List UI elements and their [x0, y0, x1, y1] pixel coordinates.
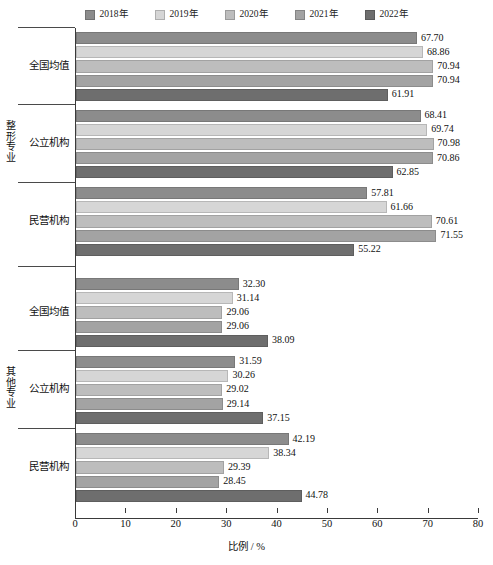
- bar-2018年[interactable]: [76, 32, 417, 44]
- bar-row: 68.41: [76, 109, 478, 123]
- bar-2022年[interactable]: [76, 335, 268, 347]
- x-tick-label: 60: [372, 518, 383, 529]
- bar-value-label: 42.19: [289, 432, 316, 446]
- bar-2020年[interactable]: [76, 384, 222, 396]
- bar-row: 28.45: [76, 475, 478, 489]
- bar-row: 37.15: [76, 411, 478, 425]
- bar-row: 67.70: [76, 31, 478, 45]
- x-tick-mark: [75, 508, 76, 513]
- bar-row: 70.94: [76, 74, 478, 88]
- category-separator: [18, 266, 75, 267]
- category-label: 全国均值: [29, 306, 69, 318]
- bar-2020年[interactable]: [76, 138, 434, 150]
- x-tick-mark: [377, 508, 378, 513]
- bar-2022年[interactable]: [76, 490, 302, 502]
- bar-value-label: 68.41: [421, 108, 448, 122]
- bar-2022年[interactable]: [76, 166, 393, 178]
- bar-2018年[interactable]: [76, 187, 367, 199]
- bar-2018年[interactable]: [76, 110, 421, 122]
- bar-2021年[interactable]: [76, 152, 433, 164]
- legend-swatch-icon: [155, 10, 165, 20]
- x-tick-label: 40: [271, 518, 282, 529]
- legend-item-2022年[interactable]: 2022年: [365, 10, 409, 20]
- bar-2019年[interactable]: [76, 447, 269, 459]
- legend-item-2020年[interactable]: 2020年: [225, 10, 269, 20]
- category-axis-labels: 全国均值公立机构民营机构全国均值公立机构民营机构: [0, 28, 75, 518]
- bar-2021年[interactable]: [76, 75, 433, 87]
- bar-2019年[interactable]: [76, 292, 233, 304]
- bar-2019年[interactable]: [76, 370, 228, 382]
- category-separator: [18, 27, 75, 28]
- x-tick-mark: [176, 508, 177, 513]
- bar-2021年[interactable]: [76, 476, 219, 488]
- x-tick-label: 10: [120, 518, 131, 529]
- bar-value-label: 62.85: [393, 165, 420, 179]
- bar-row: 31.14: [76, 291, 478, 305]
- bar-value-label: 70.86: [433, 151, 460, 165]
- bar-value-label: 31.14: [233, 291, 260, 305]
- category-separator: [18, 350, 75, 351]
- bar-value-label: 71.55: [436, 228, 463, 242]
- bar-2019年[interactable]: [76, 46, 423, 58]
- bar-row: 32.30: [76, 277, 478, 291]
- x-tick-mark: [428, 508, 429, 513]
- bar-value-label: 70.94: [433, 73, 460, 87]
- legend-swatch-icon: [85, 10, 95, 20]
- bar-value-label: 55.22: [354, 242, 381, 256]
- bar-value-label: 30.26: [228, 368, 255, 382]
- bar-row: 38.34: [76, 446, 478, 460]
- bar-group: 57.8161.6670.6171.5555.22: [76, 186, 478, 257]
- bar-2021年[interactable]: [76, 321, 222, 333]
- bar-2020年[interactable]: [76, 60, 433, 72]
- bar-2022年[interactable]: [76, 89, 388, 101]
- bar-row: 62.85: [76, 165, 478, 179]
- bar-2018年[interactable]: [76, 433, 289, 445]
- bar-chart: 2018年2019年2020年2021年2022年 全国均值公立机构民营机构全国…: [0, 0, 493, 565]
- bar-value-label: 37.15: [263, 411, 290, 425]
- bar-row: 55.22: [76, 243, 478, 257]
- category-label: 公立机构: [29, 383, 69, 395]
- bar-row: 31.59: [76, 355, 478, 369]
- bar-2020年[interactable]: [76, 215, 432, 227]
- category-label: 民营机构: [29, 215, 69, 227]
- x-tick-mark: [277, 508, 278, 513]
- bar-row: 68.86: [76, 45, 478, 59]
- bar-2019年[interactable]: [76, 201, 387, 213]
- bar-row: 70.98: [76, 137, 478, 151]
- bar-2020年[interactable]: [76, 306, 222, 318]
- bar-2021年[interactable]: [76, 398, 223, 410]
- bar-value-label: 70.98: [434, 136, 461, 150]
- bar-2022年[interactable]: [76, 244, 354, 256]
- bar-value-label: 29.06: [222, 305, 249, 319]
- bar-2021年[interactable]: [76, 230, 436, 242]
- category-label: 民营机构: [29, 461, 69, 473]
- bar-value-label: 61.66: [387, 200, 414, 214]
- legend-item-2019年[interactable]: 2019年: [155, 10, 199, 20]
- bar-value-label: 28.45: [219, 474, 246, 488]
- bar-row: 29.06: [76, 320, 478, 334]
- legend-item-2018年[interactable]: 2018年: [85, 10, 129, 20]
- bar-row: 61.91: [76, 88, 478, 102]
- plot-area: 67.7068.8670.9470.9461.9168.4169.7470.98…: [75, 28, 478, 518]
- bar-value-label: 44.78: [302, 488, 329, 502]
- x-axis-title: 比例 / %: [0, 538, 493, 553]
- bar-2018年[interactable]: [76, 356, 235, 368]
- x-tick-label: 30: [221, 518, 232, 529]
- category-label: 全国均值: [29, 60, 69, 72]
- bar-2019年[interactable]: [76, 124, 427, 136]
- chart-legend: 2018年2019年2020年2021年2022年: [0, 6, 493, 24]
- bar-row: 71.55: [76, 229, 478, 243]
- bar-row: 29.39: [76, 460, 478, 474]
- legend-item-2021年[interactable]: 2021年: [295, 10, 339, 20]
- category-separator: [18, 182, 75, 183]
- bar-row: 57.81: [76, 186, 478, 200]
- bar-2018年[interactable]: [76, 278, 239, 290]
- bar-2022年[interactable]: [76, 412, 263, 424]
- bar-row: 30.26: [76, 369, 478, 383]
- legend-swatch-icon: [225, 10, 235, 20]
- bar-2020年[interactable]: [76, 461, 224, 473]
- bar-row: 29.02: [76, 383, 478, 397]
- bar-group: 32.3031.1429.0629.0638.09: [76, 277, 478, 348]
- bar-value-label: 57.81: [367, 186, 394, 200]
- bar-row: 44.78: [76, 489, 478, 503]
